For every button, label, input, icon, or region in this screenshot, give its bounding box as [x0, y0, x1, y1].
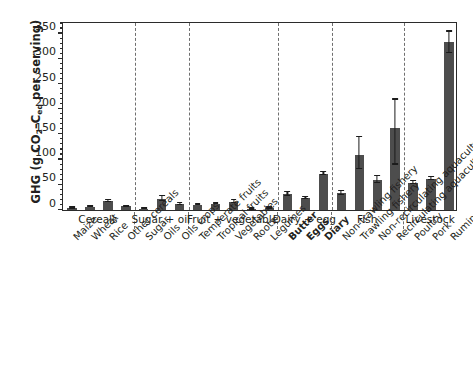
category-labels-layer: MaizeWheatRiceOther cerealsSugarOilsOils… [0, 0, 473, 372]
x-axis-category-label: Sugar [143, 235, 151, 243]
x-axis-category-label: Non-trawling fishery [340, 235, 348, 243]
x-axis-category-label: Diary [322, 235, 330, 243]
x-axis-category-label: Butter [287, 235, 295, 243]
x-axis-category-label: Tropical fruits [215, 235, 223, 243]
x-axis-category-label: Wheat [89, 235, 97, 243]
x-axis-category-label: Rice [107, 235, 115, 243]
x-axis-category-label: Ruminant meat [448, 235, 456, 243]
x-axis-category-label: Eggs [304, 235, 312, 243]
x-axis-category-label: Recirculating aquaculture [394, 235, 402, 243]
x-axis-category-label: Roots [251, 235, 259, 243]
x-axis-category-label: Non-recirculating aquaculture [376, 235, 384, 243]
x-axis-category-label: Vegetables [233, 235, 241, 243]
x-axis-category-label: Other cereals [125, 235, 133, 243]
x-axis-category-label: Temperate fruits [197, 235, 205, 243]
x-axis-category-label: Poultry [412, 235, 420, 243]
ghg-bar-chart-figure: GHG (g CO2–Ceq per serving) 050100150200… [0, 0, 473, 372]
x-axis-category-label: Legumes [269, 235, 277, 243]
x-axis-category-label: Oils [161, 235, 169, 243]
x-axis-category-label: Trawling fishery [358, 235, 366, 243]
x-axis-category-label: Oils crops [179, 235, 187, 243]
x-axis-category-label: Pork [430, 235, 438, 243]
x-axis-category-label: Maize [71, 235, 79, 243]
